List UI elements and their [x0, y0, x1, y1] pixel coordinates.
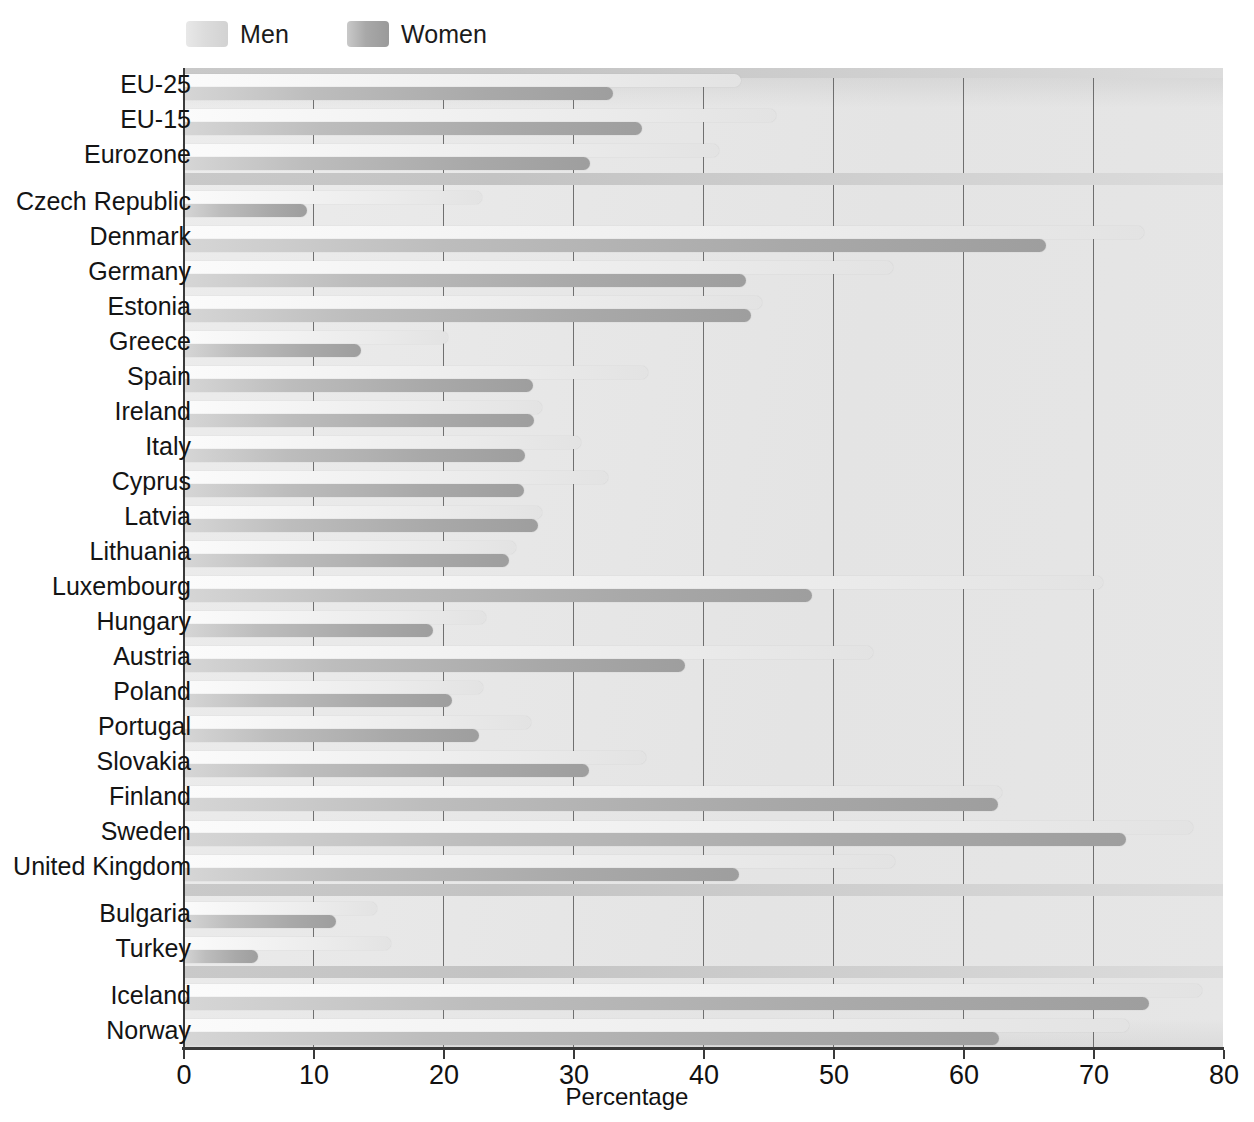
category-label: Slovakia: [97, 749, 192, 774]
group-separator-band: [183, 173, 1223, 185]
bar-row: [183, 779, 1223, 814]
bar-row: [183, 185, 1223, 220]
bar-women: [183, 868, 739, 881]
bar-row: [183, 1013, 1223, 1048]
category-label: Luxembourg: [52, 574, 191, 599]
bar-men: [183, 506, 542, 519]
bar-men: [183, 74, 741, 87]
x-tick-60: [963, 1050, 965, 1059]
category-label: Latvia: [124, 504, 191, 529]
group-separator-band: [183, 884, 1223, 896]
bar-row: [183, 500, 1223, 535]
bar-women: [183, 729, 479, 742]
bar-men: [183, 716, 531, 729]
x-tick-0: [183, 1050, 185, 1059]
bar-men: [183, 436, 581, 449]
category-label: Austria: [113, 644, 191, 669]
x-tick-50: [833, 1050, 835, 1059]
bar-men: [183, 646, 873, 659]
category-label: Hungary: [97, 609, 192, 634]
bar-women: [183, 915, 336, 928]
bar-row: [183, 978, 1223, 1013]
category-label: Cyprus: [112, 469, 191, 494]
bar-row: [183, 290, 1223, 325]
chart-legend: Men Women: [186, 14, 545, 54]
bar-women: [183, 997, 1149, 1010]
bar-row: [183, 103, 1223, 138]
category-label: Turkey: [116, 936, 191, 961]
category-label: Spain: [127, 364, 191, 389]
bar-men: [183, 855, 895, 868]
bar-row: [183, 569, 1223, 604]
bar-men: [183, 611, 486, 624]
category-label: Italy: [145, 434, 191, 459]
bar-row: [183, 325, 1223, 360]
bar-row: [183, 674, 1223, 709]
category-label: Lithuania: [90, 539, 191, 564]
bar-women: [183, 379, 533, 392]
bar-men: [183, 751, 646, 764]
bar-row: [183, 604, 1223, 639]
bar-women: [183, 519, 538, 532]
bar-men: [183, 576, 1103, 589]
bar-row: [183, 138, 1223, 173]
bar-men: [183, 109, 776, 122]
bar-row: [183, 896, 1223, 931]
bar-women: [183, 274, 746, 287]
x-axis-title: Percentage: [0, 1083, 1254, 1111]
legend-item-women: Women: [347, 20, 487, 49]
bar-women: [183, 694, 452, 707]
bar-row: [183, 255, 1223, 290]
category-label: Bulgaria: [99, 901, 191, 926]
legend-swatch-men-icon: [186, 21, 228, 47]
x-tick-80: [1223, 1050, 1225, 1059]
bar-row: [183, 68, 1223, 103]
bar-men: [183, 261, 893, 274]
category-label: Poland: [113, 679, 191, 704]
bar-women: [183, 554, 509, 567]
bar-row: [183, 360, 1223, 395]
bar-women: [183, 157, 590, 170]
category-label: Finland: [109, 784, 191, 809]
bar-row: [183, 849, 1223, 884]
bar-row: [183, 535, 1223, 570]
bar-row: [183, 465, 1223, 500]
category-label: Greece: [109, 329, 191, 354]
x-tick-20: [443, 1050, 445, 1059]
x-tick-40: [703, 1050, 705, 1059]
bar-men: [183, 984, 1202, 997]
category-label: Norway: [106, 1018, 191, 1043]
plot-area: [183, 68, 1223, 1048]
x-tick-70: [1093, 1050, 1095, 1059]
bar-women: [183, 449, 525, 462]
bar-men: [183, 902, 377, 915]
legend-label-men: Men: [240, 20, 289, 49]
bar-men: [183, 366, 648, 379]
group-separator-band: [183, 966, 1223, 978]
bar-men: [183, 144, 719, 157]
category-label: EU-25: [120, 72, 191, 97]
x-tick-30: [573, 1050, 575, 1059]
bar-women: [183, 484, 524, 497]
category-label: Portugal: [98, 714, 191, 739]
bar-row: [183, 744, 1223, 779]
category-label: EU-15: [120, 107, 191, 132]
bar-women: [183, 344, 361, 357]
bar-men: [183, 401, 542, 414]
bar-women: [183, 659, 685, 672]
bar-women: [183, 764, 589, 777]
category-label: Iceland: [110, 983, 191, 1008]
category-label: Eurozone: [84, 142, 191, 167]
category-label: Denmark: [90, 224, 191, 249]
bar-women: [183, 122, 642, 135]
bar-men: [183, 786, 1002, 799]
bar-women: [183, 833, 1126, 846]
bar-row: [183, 395, 1223, 430]
legend-label-women: Women: [401, 20, 487, 49]
bar-women: [183, 1032, 999, 1045]
bar-women: [183, 87, 613, 100]
bar-row: [183, 639, 1223, 674]
category-label: Germany: [88, 259, 191, 284]
bar-women: [183, 624, 433, 637]
bar-women: [183, 589, 812, 602]
